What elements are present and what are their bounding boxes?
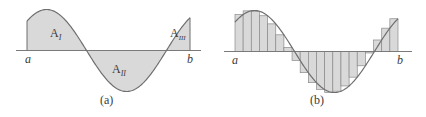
riemann-rectangle <box>382 28 390 51</box>
panel-a: AI AII AIII a b (a) <box>16 10 201 108</box>
caption-b: (b) <box>310 93 324 107</box>
caption-a: (a) <box>100 93 113 107</box>
axis-label-a-left: a <box>25 52 31 66</box>
riemann-rectangle <box>268 24 276 52</box>
riemann-rectangle <box>251 11 259 51</box>
axis-label-a-right: b <box>187 52 193 66</box>
panel-b: a b (b) <box>224 11 412 108</box>
riemann-rectangle <box>259 16 267 52</box>
axis-label-b-left: a <box>232 53 238 67</box>
riemann-sum-figure: AI AII AIII a b (a) a b (b) <box>0 0 426 117</box>
riemann-rectangle <box>243 11 251 52</box>
axis-label-b-right: b <box>397 53 403 67</box>
riemann-rectangle <box>349 52 357 78</box>
riemann-rectangle <box>357 52 365 66</box>
riemann-rectangle <box>325 52 333 93</box>
riemann-rectangle <box>333 52 341 92</box>
riemann-rectangle <box>341 52 349 86</box>
riemann-rectangle <box>276 35 284 52</box>
riemann-rectangle <box>284 47 292 51</box>
